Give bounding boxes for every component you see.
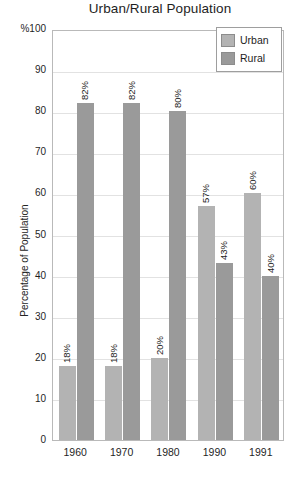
legend-item-label: Urban (240, 34, 269, 46)
bar-urban-1980[interactable] (151, 358, 168, 440)
bar-rural-1960[interactable] (77, 103, 94, 440)
bar-value-label: 40% (265, 254, 276, 273)
y-axis-tick-label: 30 (2, 311, 46, 322)
x-axis-tick-label: 1990 (191, 446, 237, 458)
bar-value-label: 82% (126, 81, 137, 100)
y-axis-tick-label: %100 (2, 23, 46, 34)
x-axis-tick-label: 1980 (145, 446, 191, 458)
y-axis-tick-label: 0 (2, 434, 46, 445)
bar-group: 20%80% (146, 31, 192, 440)
chart-title: Urban/Rural Population (40, 1, 280, 16)
bar-urban-1991[interactable] (244, 193, 261, 440)
legend: UrbanRural (216, 27, 282, 72)
bar-group: 60%40% (239, 31, 285, 440)
bar-rural-1970[interactable] (123, 103, 140, 440)
x-axis-tick-label: 1991 (238, 446, 284, 458)
legend-item[interactable]: Urban (221, 31, 277, 49)
bar-value-label: 43% (218, 241, 229, 260)
y-axis-tick-label: 40 (2, 270, 46, 281)
legend-item-label: Rural (240, 52, 265, 64)
bar-value-label: 18% (61, 344, 72, 363)
bar-chart: Urban/Rural Population Percentage of Pop… (0, 0, 292, 484)
bar-value-label: 80% (172, 89, 183, 108)
x-axis-tick-labels: 19601970198019901991 (52, 446, 284, 466)
bar-group: 18%82% (99, 31, 145, 440)
y-axis-tick-label: 80 (2, 105, 46, 116)
bar-value-label: 57% (200, 184, 211, 203)
x-axis-tick-label: 1970 (98, 446, 144, 458)
bar-rural-1980[interactable] (169, 111, 186, 440)
bar-group: 18%82% (53, 31, 99, 440)
bar-urban-1990[interactable] (198, 206, 215, 440)
x-axis-tick-label: 1960 (52, 446, 98, 458)
y-axis-tick-label: 10 (2, 393, 46, 404)
y-axis-tick-label: 90 (2, 64, 46, 75)
legend-swatch-icon (221, 34, 235, 47)
y-axis-tick-label: 60 (2, 187, 46, 198)
bar-series-container: 18%82%18%82%20%80%57%43%60%40% (53, 31, 283, 440)
y-axis-tick-label: 20 (2, 352, 46, 363)
bar-urban-1970[interactable] (105, 366, 122, 440)
bar-value-label: 60% (247, 171, 258, 190)
plot-area: 18%82%18%82%20%80%57%43%60%40% (52, 30, 284, 441)
bar-value-label: 82% (79, 81, 90, 100)
bar-urban-1960[interactable] (59, 366, 76, 440)
y-axis-tick-label: 70 (2, 146, 46, 157)
bar-value-label: 18% (108, 344, 119, 363)
legend-swatch-icon (221, 52, 235, 65)
y-axis-tick-label: 50 (2, 229, 46, 240)
bar-rural-1991[interactable] (262, 276, 279, 440)
legend-item[interactable]: Rural (221, 49, 277, 67)
bar-group: 57%43% (192, 31, 238, 440)
bar-value-label: 20% (154, 336, 165, 355)
bar-rural-1990[interactable] (216, 263, 233, 440)
